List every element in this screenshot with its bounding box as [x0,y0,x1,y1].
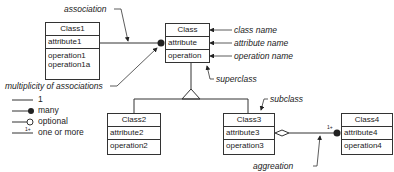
class4-box: Class4 attribute4 operation4 [341,113,393,155]
class-attribute: attribute3 [224,126,274,139]
class-operations: operation1 operation1a [46,48,99,71]
class-name: Class3 [224,114,274,126]
subclass-label: subclass [270,94,303,104]
legend-one-or-more-mark: 1+ [25,126,31,132]
superclass-label: superclass [216,74,257,84]
class-box: Class attribute operation [165,23,210,63]
many-circle-icon [158,40,165,47]
class2-box: Class2 attribute2 operation2 [107,113,161,155]
class-operation: operation3 [224,139,274,152]
class-name-label: class name [234,25,277,35]
many-circle-icon [334,130,341,137]
association-label: association [64,4,107,14]
legend-item-one-or-more: one or more [38,127,84,137]
legend-item-many: many [38,105,59,115]
class-name: Class4 [342,114,392,126]
class-operation: operation1 [48,51,97,60]
attribute-name-label: attribute name [234,38,288,48]
class-name: Class [166,24,209,36]
class1-box: Class1 attribute1 operation1 operation1a [45,22,100,80]
class-attribute: attribute1 [46,35,99,48]
class-name: Class2 [108,114,160,126]
class-name: Class1 [46,23,99,35]
class-attribute: attribute2 [108,126,160,139]
class-attribute: attribute [166,36,209,49]
legend-item-1: 1 [38,94,43,104]
class-operation: operation4 [342,139,392,152]
aggregation-diamond-icon [275,130,289,136]
generalization-triangle-icon [182,89,200,99]
class-attribute: attribute4 [342,126,392,139]
class3-box: Class3 attribute3 operation3 [223,113,275,155]
aggregation-label: aggreation [253,161,293,171]
one-or-more-mark: 1+ [327,124,333,130]
class-operation: operation [166,49,209,62]
multiplicity-label: multiplicity of associations [5,81,103,91]
operation-name-label: operation name [234,51,293,61]
legend-item-optional: optional [38,116,68,126]
class-operation: operation1a [48,60,97,69]
class-operation: operation2 [108,139,160,152]
